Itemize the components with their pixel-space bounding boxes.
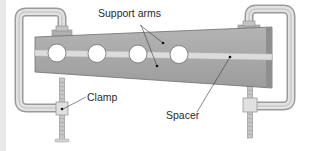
hole-4 bbox=[170, 46, 188, 64]
label-spacer: Spacer bbox=[166, 110, 199, 121]
label-clamp: Clamp bbox=[87, 92, 117, 103]
label-support-arms: Support arms bbox=[98, 8, 161, 19]
apparatus-diagram bbox=[0, 0, 310, 151]
hole-3 bbox=[129, 45, 147, 63]
left-clamp bbox=[19, 12, 72, 142]
hole-2 bbox=[88, 45, 106, 63]
hole-1 bbox=[48, 44, 66, 62]
